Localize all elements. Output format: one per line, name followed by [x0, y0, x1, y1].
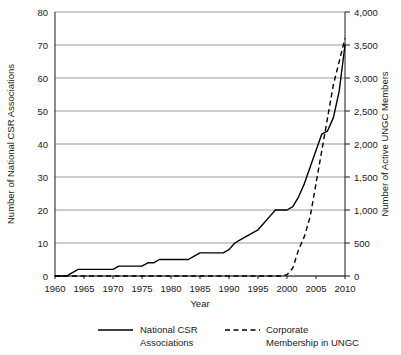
right-axis-tick-labels: 05001,0001,5002,0002,5003,0003,5004,000 — [345, 7, 378, 282]
y2-axis-tick-label: 0 — [354, 271, 359, 282]
y-axis-tick-label: 30 — [37, 172, 48, 183]
x-axis-tick-label: 1990 — [218, 283, 239, 294]
x-axis-tick-label: 1960 — [44, 283, 65, 294]
x-axis-title: Year — [190, 298, 209, 309]
y-axis-tick-label: 10 — [37, 238, 48, 249]
x-axis-tick-label: 1980 — [160, 283, 181, 294]
x-axis-tick-label: 2010 — [334, 283, 355, 294]
series-national-csr-associations — [55, 45, 345, 276]
y-axis-tick-label: 20 — [37, 205, 48, 216]
y-axis-tick-label: 0 — [43, 271, 48, 282]
legend-label-corporate-ungc-line2: Membership in UNGC — [266, 337, 359, 348]
x-axis-tick-label: 1995 — [247, 283, 268, 294]
y2-axis-tick-label: 2,000 — [354, 139, 378, 150]
gridlines — [55, 12, 345, 276]
y-axis-tick-label: 40 — [37, 139, 48, 150]
y-axis-title: Number of National CSR Associations — [5, 64, 16, 224]
left-axis-tick-labels: 01020304050607080 — [37, 7, 48, 282]
y2-axis-tick-label: 4,000 — [354, 7, 378, 18]
csr-ungc-line-chart: 01020304050607080 05001,0001,5002,0002,5… — [0, 0, 401, 355]
x-axis-tick-labels: 1960196519701975198019851990199520002005… — [44, 283, 355, 294]
x-axis-tick-label: 2005 — [305, 283, 326, 294]
x-axis-tick-label: 1985 — [189, 283, 210, 294]
x-axis-tick-label: 1965 — [73, 283, 94, 294]
y-axis-tick-label: 80 — [37, 7, 48, 18]
y2-axis-tick-label: 500 — [354, 238, 370, 249]
chart-container: 01020304050607080 05001,0001,5002,0002,5… — [0, 0, 401, 355]
y-axis-tick-label: 70 — [37, 40, 48, 51]
legend-label-national-csr-line1: National CSR — [140, 324, 198, 335]
x-axis-tick-label: 2000 — [276, 283, 297, 294]
y-axis-tick-label: 50 — [37, 106, 48, 117]
y2-axis-tick-label: 3,500 — [354, 40, 378, 51]
y-axis-tick-label: 60 — [37, 73, 48, 84]
y2-axis-tick-label: 1,500 — [354, 172, 378, 183]
y2-axis-tick-label: 2,500 — [354, 106, 378, 117]
chart-legend: National CSR Associations Corporate Memb… — [98, 324, 359, 348]
series-corporate-membership-ungc — [55, 38, 345, 276]
y2-axis-title: Number of Active UNGC Members — [379, 71, 390, 216]
legend-label-corporate-ungc-line1: Corporate — [266, 324, 308, 335]
y2-axis-tick-label: 1,000 — [354, 205, 378, 216]
x-axis-tick-label: 1970 — [102, 283, 123, 294]
legend-label-national-csr-line2: Associations — [140, 337, 194, 348]
y2-axis-tick-label: 3,000 — [354, 73, 378, 84]
x-axis-tick-label: 1975 — [131, 283, 152, 294]
